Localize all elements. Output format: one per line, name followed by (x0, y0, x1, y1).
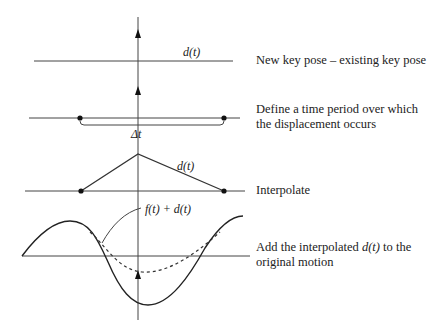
displacement-diagram: d(t) Δt d(t) f(t) + d(t) (0, 0, 436, 330)
arrow-up-icon (135, 29, 141, 38)
interpolated-d-curve (81, 154, 224, 191)
sum-label: f(t) + d(t) (145, 202, 191, 216)
sum-leader-line (102, 208, 141, 243)
interp-start-dot (78, 188, 83, 193)
interp-end-dot (221, 188, 226, 193)
end-key-dot (221, 115, 226, 120)
step-1-description: New key pose – existing key pose (256, 53, 436, 68)
step-4-math: d(t) (362, 240, 380, 254)
delta-t-bracket (80, 121, 224, 125)
delta-t-label: Δt (130, 127, 142, 141)
original-motion-curve (22, 216, 243, 305)
step-2-description: Define a time period over which the disp… (256, 102, 436, 132)
step-4-description: Add the interpolated d(t) to the origina… (256, 240, 436, 270)
step-3-description: Interpolate (256, 183, 436, 198)
start-key-dot (77, 115, 82, 120)
triangle-d-label: d(t) (177, 159, 194, 173)
top-d-label: d(t) (183, 45, 200, 59)
arrow-up-icon (135, 86, 141, 95)
step-4-prefix: Add the interpolated (256, 240, 362, 254)
